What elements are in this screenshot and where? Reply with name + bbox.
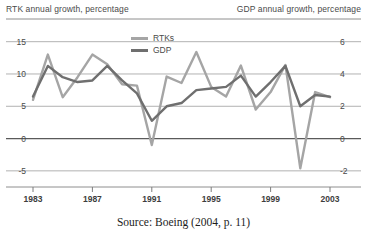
legend-label: GDP (153, 46, 171, 55)
chart-figure: RTK annual growth, percentage GDP annual… (0, 0, 367, 243)
legend-swatch-rtks-icon (131, 37, 148, 40)
legend-item-rtks[interactable]: RTKs (131, 34, 174, 43)
left-axis-tick-15: 15 (0, 37, 26, 47)
legend-label: RTKs (153, 34, 174, 43)
left-axis-tick-10: 10 (0, 69, 26, 79)
x-axis-tick-2003: 2003 (310, 194, 350, 204)
left-axis-tick-0: 0 (0, 134, 26, 144)
plot-area (0, 0, 367, 243)
right-axis-tick-0: 0 (340, 134, 345, 144)
right-axis-tick-neg2: -2 (340, 166, 348, 176)
x-axis-tick-1995: 1995 (191, 194, 231, 204)
right-axis-tick-2: 2 (340, 101, 345, 111)
right-axis-tick-4: 4 (340, 69, 345, 79)
x-axis-tick-1983: 1983 (13, 194, 53, 204)
left-axis-tick-neg5: -5 (0, 166, 26, 176)
x-axis-tick-1999: 1999 (251, 194, 291, 204)
legend-swatch-gdp-icon (131, 49, 148, 52)
right-axis-tick-6: 6 (340, 37, 345, 47)
x-axis-tick-1991: 1991 (132, 194, 172, 204)
x-axis-tick-1987: 1987 (72, 194, 112, 204)
source-caption: Source: Boeing (2004, p. 11) (0, 216, 367, 228)
left-axis-tick-5: 5 (0, 101, 26, 111)
legend-item-gdp[interactable]: GDP (131, 46, 171, 55)
